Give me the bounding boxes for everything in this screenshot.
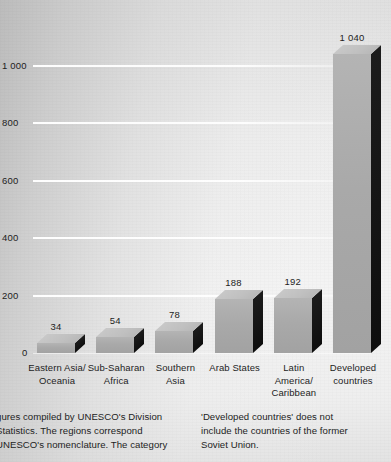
bar: 188 <box>215 299 253 353</box>
bar-value-label: 78 <box>155 309 193 320</box>
bar-front-face <box>215 299 253 353</box>
bar-chart: 02004006008001 000 3454781881921 040 Eas… <box>0 0 391 462</box>
bar-side-face <box>312 289 322 353</box>
bar-value-label: 1 040 <box>333 32 371 43</box>
y-tick-label: 400 <box>2 232 32 243</box>
axis-baseline <box>33 353 371 354</box>
gridline <box>33 65 371 67</box>
gridline <box>33 180 371 182</box>
y-tick-label: 600 <box>2 175 32 186</box>
bar-value-label: 54 <box>96 315 134 326</box>
bar-value-label: 192 <box>274 276 312 287</box>
bar: 34 <box>37 343 75 353</box>
bar: 78 <box>155 331 193 353</box>
bar-value-label: 188 <box>215 277 253 288</box>
gridline <box>33 237 371 239</box>
y-tick-label: 1 000 <box>2 60 32 71</box>
bar-value-label: 34 <box>37 321 75 332</box>
bar: 192 <box>274 298 312 353</box>
footnote-left: gures compiled by UNESCO's Division Stat… <box>0 410 201 462</box>
gridline <box>33 122 371 124</box>
footnotes: gures compiled by UNESCO's Division Stat… <box>0 410 391 462</box>
bar: 54 <box>96 337 134 353</box>
y-tick-label: 200 <box>2 290 32 301</box>
bar-front-face <box>96 337 134 353</box>
bar-side-face <box>253 290 263 353</box>
bar-side-face <box>371 45 381 353</box>
bar-front-face <box>333 54 371 353</box>
y-tick-label: 0 <box>22 347 32 358</box>
y-tick-label: 800 <box>2 117 32 128</box>
category-label: Eastern Asia/ Oceania <box>28 362 86 387</box>
bar-front-face <box>37 343 75 353</box>
footnote-right: 'Developed countries' does not include t… <box>201 410 387 462</box>
bar-front-face <box>274 298 312 353</box>
category-label: Sub-Saharan Africa <box>87 362 145 387</box>
category-label: Developed countries <box>324 362 382 387</box>
bar-front-face <box>155 331 193 353</box>
category-label: Arab States <box>206 362 264 375</box>
bar: 1 040 <box>333 54 371 353</box>
category-label: Latin America/ Caribbean <box>265 362 323 400</box>
category-label: Southern Asia <box>146 362 204 387</box>
